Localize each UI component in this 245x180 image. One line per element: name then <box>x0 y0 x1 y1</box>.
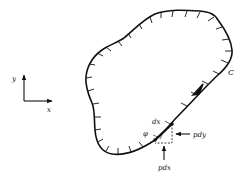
contour-label: C <box>228 68 234 77</box>
dx-label: dx <box>152 118 160 126</box>
pdx-label: pdx <box>158 164 171 172</box>
contour-c <box>86 10 232 154</box>
x-axis-label: x <box>47 106 51 114</box>
pdy-label: pdy <box>193 131 207 139</box>
y-axis-label: y <box>11 75 17 83</box>
direction-arrow-icon <box>193 84 203 95</box>
diagram-canvas: C y x dx φ pdy pdx <box>0 0 245 180</box>
phi-label: φ <box>143 130 148 138</box>
contour-diagram: C y x dx φ pdy pdx <box>0 0 245 180</box>
coordinate-axes <box>24 75 52 101</box>
